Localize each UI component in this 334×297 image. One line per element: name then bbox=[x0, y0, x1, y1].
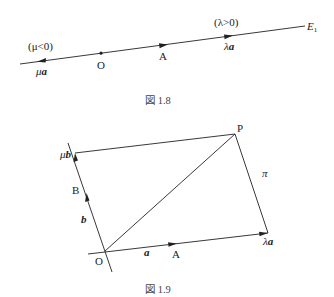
line-b-axis bbox=[68, 143, 112, 272]
lambda-condition-label: (λ>0) bbox=[214, 16, 239, 29]
lambda-a-label: λa bbox=[223, 40, 235, 52]
arrow-mu-b-icon bbox=[74, 153, 79, 162]
lambda-a-label: λa bbox=[262, 235, 274, 247]
point-p-label: P bbox=[237, 122, 243, 134]
arrow-mu-a-icon bbox=[37, 58, 46, 63]
point-a-label: A bbox=[159, 50, 167, 62]
caption-1-9: 図 1.9 bbox=[145, 284, 171, 295]
vec-b-label: b bbox=[81, 213, 87, 225]
point-b-label: B bbox=[72, 184, 79, 196]
line-mub-to-p bbox=[75, 134, 235, 153]
origin-dot bbox=[99, 52, 102, 55]
figure-1-8: (μ<0) μa O A (λ>0) λa E1 図 1.8 bbox=[20, 16, 318, 106]
line-o-to-p bbox=[105, 134, 235, 251]
diagram-canvas: (μ<0) μa O A (λ>0) λa E1 図 1.8 P μb B b … bbox=[0, 0, 334, 297]
arrow-lambda-a-icon bbox=[224, 34, 233, 39]
e1-label: E1 bbox=[306, 20, 318, 34]
caption-1-8: 図 1.8 bbox=[145, 95, 171, 106]
mu-condition-label: (μ<0) bbox=[28, 40, 53, 53]
arrow-a-icon bbox=[168, 242, 177, 247]
figure-1-9: P μb B b O a A π λa 図 1.9 bbox=[59, 122, 274, 295]
mu-a-label: μa bbox=[35, 65, 48, 77]
origin-label: O bbox=[95, 255, 103, 267]
plane-pi-label: π bbox=[262, 167, 268, 179]
line-p-to-lambda-a bbox=[235, 134, 268, 233]
point-a-label: A bbox=[172, 248, 180, 260]
origin-label: O bbox=[97, 59, 105, 71]
vec-a-label: a bbox=[144, 246, 150, 258]
mu-b-label: μb bbox=[59, 148, 72, 160]
